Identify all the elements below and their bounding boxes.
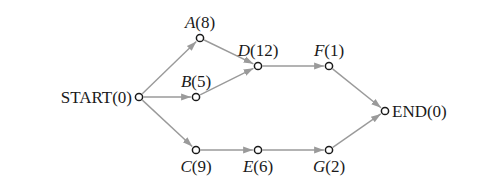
node-start-name: START xyxy=(61,88,113,107)
node-f-circle-icon xyxy=(325,62,332,69)
node-c-duration: (9) xyxy=(192,157,212,176)
node-e-name: E xyxy=(242,157,254,176)
node-e-label: E(6) xyxy=(242,157,273,176)
node-c-label: C(9) xyxy=(180,157,211,176)
node-g-name: G xyxy=(313,157,325,176)
node-start-duration: (0) xyxy=(112,88,132,107)
node-start-circle-icon xyxy=(135,93,142,100)
node-c-circle-icon xyxy=(192,146,199,153)
node-f-label: F(1) xyxy=(313,41,344,60)
node-a-circle-icon xyxy=(196,34,203,41)
node-d-circle-icon xyxy=(254,62,261,69)
activity-network-diagram: START(0)A(8)B(5)C(9)D(12)E(6)F(1)G(2)END… xyxy=(0,0,492,194)
node-d-duration: (12) xyxy=(250,41,278,60)
edge-start-to-c-arrow xyxy=(142,100,192,146)
node-end-circle-icon xyxy=(381,107,388,114)
node-a-name: A xyxy=(184,13,196,32)
edge-f-to-end-arrow xyxy=(333,69,381,108)
node-a-duration: (8) xyxy=(195,13,215,32)
node-a-label: A(8) xyxy=(184,13,215,32)
node-g-circle-icon xyxy=(325,146,332,153)
node-end-duration: (0) xyxy=(427,102,447,121)
node-end-name: END xyxy=(392,102,427,121)
node-d-name: D xyxy=(237,41,251,60)
node-e-circle-icon xyxy=(254,146,261,153)
edge-g-to-end-arrow xyxy=(333,114,381,147)
node-e-duration: (6) xyxy=(253,157,273,176)
node-g-duration: (2) xyxy=(325,157,345,176)
node-g-label: G(2) xyxy=(313,157,345,176)
node-b-circle-icon xyxy=(192,93,199,100)
node-b-duration: (5) xyxy=(191,72,211,91)
node-f-name: F xyxy=(313,41,325,60)
node-c-name: C xyxy=(180,157,192,176)
labels: START(0)A(8)B(5)C(9)D(12)E(6)F(1)G(2)END… xyxy=(61,13,447,176)
node-f-duration: (1) xyxy=(324,41,344,60)
node-b-label: B(5) xyxy=(181,72,211,91)
node-d-label: D(12) xyxy=(237,41,279,60)
node-b-name: B xyxy=(181,72,192,91)
node-start-label: START(0) xyxy=(61,88,132,107)
node-end-label: END(0) xyxy=(392,102,447,121)
